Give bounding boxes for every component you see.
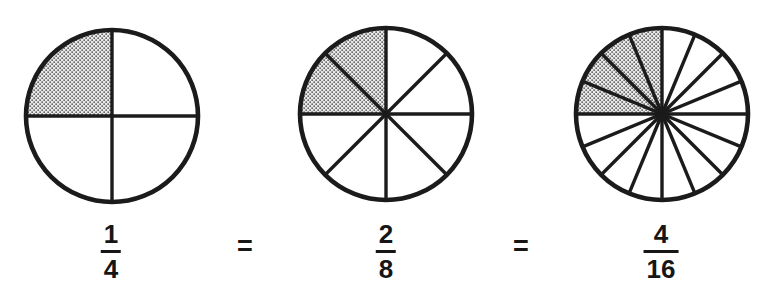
- sector-divider-line: [662, 114, 723, 175]
- equals-sign: =: [513, 233, 529, 260]
- sector-divider-line: [325, 114, 386, 175]
- sector-divider-line: [601, 114, 662, 175]
- fraction-circle-fourths: [19, 23, 205, 209]
- fraction-numerator: 4: [644, 221, 679, 253]
- fraction-numerator: 2: [376, 221, 396, 253]
- sector-divider-line: [662, 53, 723, 114]
- fraction-numerator: 1: [101, 221, 121, 253]
- sector-divider-line: [386, 114, 447, 175]
- fraction-label-two-eighths: 2 8: [376, 221, 396, 282]
- figure-canvas: 1 4 = 2 8 = 4 16: [0, 0, 772, 295]
- sector-divider-line: [386, 53, 447, 114]
- fraction-circle-sixteenths: [569, 21, 755, 207]
- fraction-denominator: 16: [644, 253, 679, 282]
- fraction-denominator: 8: [376, 253, 396, 282]
- equals-sign: =: [237, 233, 253, 260]
- fraction-circle-eighths: [293, 21, 479, 207]
- fraction-label-four-sixteenths: 4 16: [644, 221, 679, 282]
- fraction-denominator: 4: [101, 253, 121, 282]
- fraction-label-one-fourth: 1 4: [101, 221, 121, 282]
